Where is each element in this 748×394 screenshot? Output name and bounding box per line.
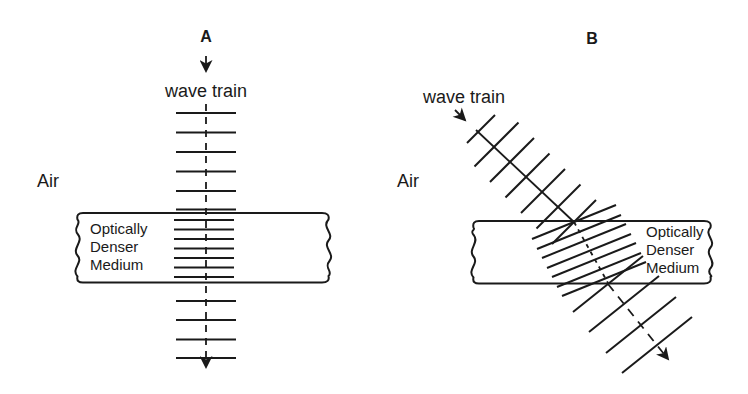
wavefront-line <box>622 317 692 373</box>
panel-a: A wave train Air Optically Denser Medium <box>37 28 331 367</box>
wavefront-line <box>467 115 495 143</box>
medium-label-b-line3: Medium <box>646 259 699 276</box>
wave-train-label-a: wave train <box>164 81 247 101</box>
wave-train-label-b: wave train <box>422 87 505 107</box>
panel-a-label: A <box>200 28 212 45</box>
medium-label-b-line1: Optically <box>646 223 704 240</box>
medium-label-a-line3: Medium <box>90 256 143 273</box>
refraction-figure: A wave train Air Optically Denser Medium <box>0 0 748 394</box>
medium-label-a-line2: Denser <box>90 238 138 255</box>
panel-b: B wave train Air Optically Denser Medium <box>397 30 712 373</box>
refraction-diagram-svg: A wave train Air Optically Denser Medium <box>0 0 748 394</box>
direction-arrow-b <box>455 110 465 120</box>
panel-b-label: B <box>586 30 598 47</box>
wavefronts-medium-a <box>174 220 234 277</box>
air-label-a: Air <box>37 171 59 191</box>
exit-ray-b <box>608 284 668 359</box>
medium-label-a-line1: Optically <box>90 220 148 237</box>
medium-label-b-line2: Denser <box>646 241 694 258</box>
air-label-b: Air <box>397 171 419 191</box>
